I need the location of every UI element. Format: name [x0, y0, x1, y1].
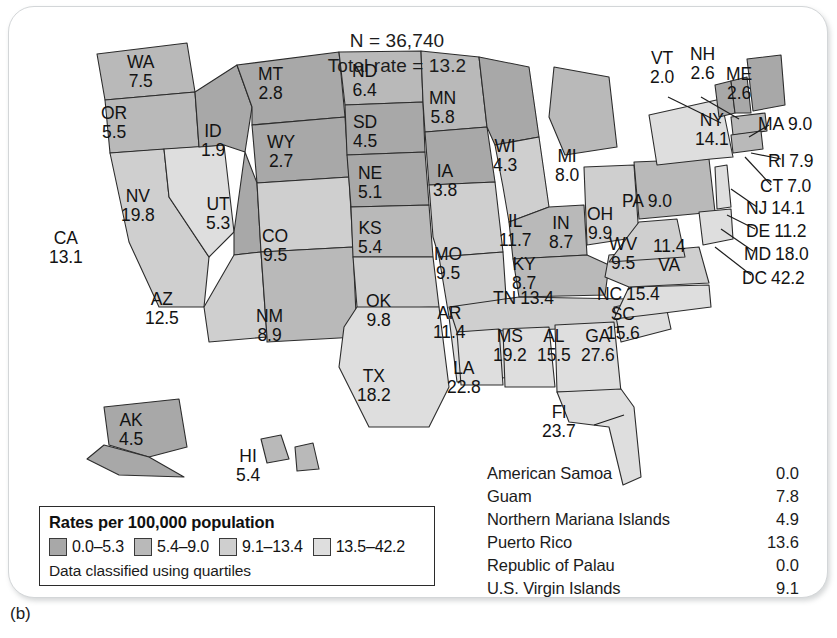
map-legend: Rates per 100,000 population 0.0–5.3 5.4…	[39, 506, 435, 586]
leader-line-ri	[751, 153, 781, 159]
choropleth-map: N = 36,740 Total rate = 13.2 WA7.5 OR5.5…	[9, 7, 827, 597]
state-shape-ne	[347, 152, 429, 207]
state-shape-ga	[555, 322, 621, 392]
state-shape-ia	[425, 127, 495, 185]
leader-line-nj	[731, 189, 757, 207]
state-shape-nj	[715, 165, 731, 209]
state-shape-mo	[429, 182, 503, 257]
state-shape-ok	[353, 257, 439, 309]
legend-label-q3: 9.1–13.4	[242, 538, 303, 556]
state-shape-tx	[339, 307, 449, 427]
table-row: American Samoa 0.0	[487, 462, 799, 485]
state-shape-de-md	[699, 209, 733, 245]
territory-name: Guam	[487, 485, 532, 508]
territory-name: American Samoa	[487, 462, 612, 485]
legend-swatch-q1	[49, 538, 67, 556]
table-row: Guam 7.8	[487, 485, 799, 508]
figure-card: N = 36,740 Total rate = 13.2 WA7.5 OR5.5…	[8, 6, 828, 598]
legend-item-q3: 9.1–13.4	[219, 538, 303, 556]
territory-name: Northern Mariana Islands	[487, 508, 670, 531]
figure-caption: (b)	[10, 604, 31, 624]
state-shape-az	[204, 252, 267, 342]
state-shape-wy	[252, 117, 349, 183]
state-shape-nh	[731, 77, 751, 113]
state-shape-sd	[345, 102, 425, 155]
legend-swatch-q2	[134, 538, 152, 556]
state-shape-ms	[457, 329, 503, 385]
table-row: U.S. Virgin Islands 9.1	[487, 577, 799, 598]
state-shape-nm	[261, 247, 357, 342]
table-row: Northern Mariana Islands 4.9	[487, 508, 799, 531]
legend-swatch-q3	[219, 538, 237, 556]
territory-value: 9.1	[776, 577, 799, 598]
state-shape-ky	[513, 255, 609, 297]
legend-label-q4: 13.5–42.2	[336, 538, 405, 556]
state-shape-mi	[549, 67, 617, 155]
legend-item-q2: 5.4–9.0	[134, 538, 209, 556]
legend-item-q1: 0.0–5.3	[49, 538, 124, 556]
table-row: Republic of Palau 0.0	[487, 554, 799, 577]
territory-name: U.S. Virgin Islands	[487, 577, 621, 598]
legend-title: Rates per 100,000 population	[49, 513, 425, 532]
state-shape-al	[503, 327, 555, 387]
legend-swatch-q4	[313, 538, 331, 556]
state-shape-ks	[351, 205, 433, 257]
legend-note: Data classified using quartiles	[49, 562, 425, 580]
state-shape-il	[495, 137, 549, 222]
map-header: N = 36,740 Total rate = 13.2	[267, 29, 527, 78]
state-shape-wa	[97, 43, 195, 100]
state-shape-pa	[634, 159, 715, 219]
state-shape-hi	[261, 435, 289, 463]
territory-name: Republic of Palau	[487, 554, 615, 577]
territory-value: 0.0	[776, 554, 799, 577]
state-shape-co	[257, 177, 353, 252]
total-rate-text: Total rate = 13.2	[267, 54, 527, 79]
state-shape-ct-ri	[731, 131, 763, 153]
legend-class-row: 0.0–5.3 5.4–9.0 9.1–13.4 13.5–42.2	[49, 538, 425, 556]
state-shape-hi-2	[295, 443, 319, 471]
state-shape-me	[747, 55, 785, 111]
state-shape-or	[105, 92, 199, 153]
legend-label-q2: 5.4–9.0	[157, 538, 209, 556]
territory-rate-table: American Samoa 0.0 Guam 7.8 Northern Mar…	[487, 462, 799, 598]
table-row: Puerto Rico 13.6	[487, 531, 799, 554]
legend-label-q1: 0.0–5.3	[72, 538, 124, 556]
legend-item-q4: 13.5–42.2	[313, 538, 405, 556]
leader-line-dc	[715, 247, 751, 275]
territory-value: 0.0	[776, 462, 799, 485]
territory-value: 13.6	[767, 531, 799, 554]
sample-size-text: N = 36,740	[267, 29, 527, 54]
territory-value: 4.9	[776, 508, 799, 531]
territory-value: 7.8	[776, 485, 799, 508]
leader-line-ct	[745, 157, 771, 185]
territory-name: Puerto Rico	[487, 531, 572, 554]
